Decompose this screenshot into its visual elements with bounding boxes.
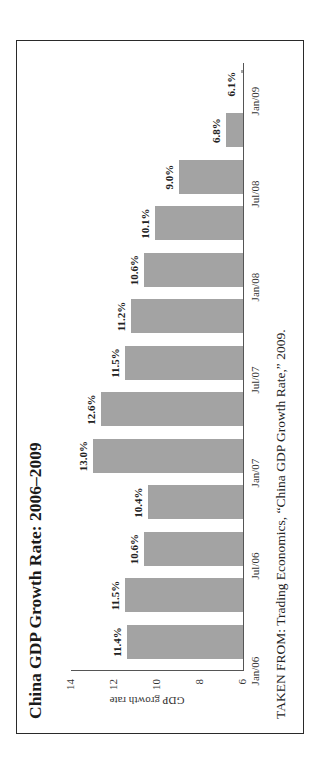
bar-value-label: 10.1% — [139, 202, 151, 246]
bar-value-label: 6.8% — [210, 109, 222, 153]
x-tick-label: Jan/09 — [249, 76, 261, 126]
bar — [226, 114, 243, 148]
x-tick-label: Jul/06 — [249, 541, 261, 591]
bar-value-label: 10.6% — [128, 527, 140, 571]
bar-value-label: 12.6% — [85, 388, 97, 432]
bar-value-label: 11.2% — [115, 295, 127, 339]
y-tick-label: 6 — [236, 679, 248, 699]
bar — [144, 532, 243, 566]
bar — [179, 160, 244, 194]
bar-value-label: 11.4% — [111, 620, 123, 664]
bar-value-label: 6.1% — [225, 62, 237, 106]
y-axis-line — [71, 670, 243, 671]
bar-value-label: 13.0% — [77, 434, 89, 478]
bar — [101, 393, 243, 427]
bar — [144, 253, 243, 287]
y-tick-label: 10 — [150, 679, 162, 699]
bar — [131, 300, 243, 334]
chart-title: China GDP Growth Rate: 2006–2009 — [25, 442, 46, 719]
x-axis-line — [243, 63, 244, 671]
y-tick-label: 14 — [64, 679, 76, 699]
bar — [125, 346, 243, 380]
bar — [155, 207, 243, 241]
bar-value-label: 10.4% — [132, 481, 144, 525]
bar — [93, 439, 244, 473]
bar — [125, 579, 243, 613]
x-tick-label: Jan/06 — [249, 646, 261, 696]
x-tick-label: Jul/07 — [249, 355, 261, 405]
bar — [148, 486, 243, 520]
y-tick-label: 8 — [193, 679, 205, 699]
bar-value-label: 10.6% — [128, 248, 140, 292]
x-tick-label: Jul/08 — [249, 169, 261, 219]
bar-value-label: 9.0% — [163, 155, 175, 199]
source-note: TAKEN FROM: Trading Economics, “China GD… — [273, 329, 289, 719]
y-tick-label: 12 — [107, 679, 119, 699]
bar — [241, 70, 243, 73]
chart-figure: China GDP Growth Rate: 2006–2009 GDP gro… — [16, 40, 304, 734]
bar-value-label: 11.5% — [109, 341, 121, 385]
x-tick-label: Jan/08 — [249, 262, 261, 312]
bar — [127, 625, 243, 659]
bar-value-label: 11.5% — [109, 574, 121, 618]
x-tick-label: Jan/07 — [249, 448, 261, 498]
